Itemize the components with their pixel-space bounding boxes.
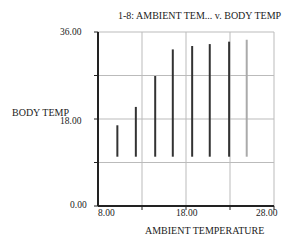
plot-area [0, 0, 295, 245]
bars [117, 40, 246, 157]
